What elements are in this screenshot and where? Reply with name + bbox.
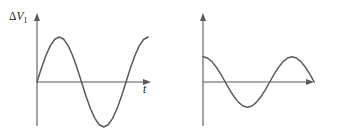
y-axis-arrowhead [200, 13, 206, 21]
y-axis-arrowhead [34, 13, 40, 21]
x-axis-label-delta-v1: t [143, 84, 146, 96]
chart-svg-delta-v2 [168, 0, 337, 137]
waveform-figure: ΔV1 t ΔV2 t [0, 0, 337, 137]
y-axis-label-delta-v1: ΔV1 [9, 11, 27, 25]
chart-panel-delta-v2: ΔV2 t [168, 0, 337, 137]
subscript-index: 1 [23, 16, 27, 25]
chart-panel-delta-v1: ΔV1 t [0, 0, 168, 137]
